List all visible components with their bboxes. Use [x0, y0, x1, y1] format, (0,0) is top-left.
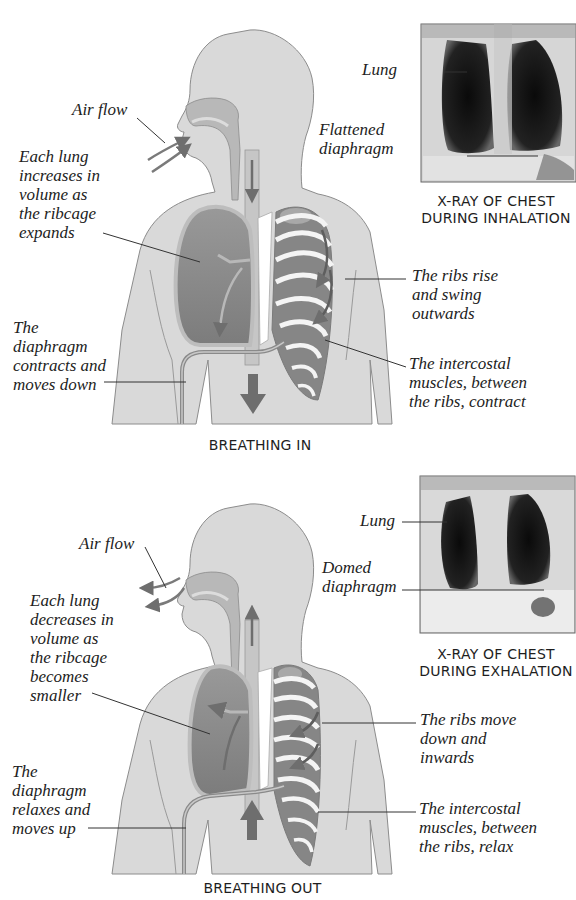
label-intercostal-contract: The intercostal muscles, between the rib…: [409, 354, 527, 411]
airflow-arrow-2: [152, 148, 186, 172]
label-air-flow-in: Air flow: [72, 100, 127, 119]
label-lung-increases: Each lung increases in volume as the rib…: [19, 147, 100, 242]
caption-breathing-out: BREATHING OUT: [175, 880, 350, 897]
label-xray-lung-out: Lung: [360, 511, 395, 530]
caption-xray-inhalation: X-RAY OF CHEST DURING INHALATION: [412, 193, 576, 227]
xray-exhale: [420, 476, 575, 633]
xray-inhale: [421, 24, 576, 182]
label-diaphragm-relaxes: The diaphragm relaxes and moves up: [12, 762, 90, 838]
caption-breathing-in: BREATHING IN: [180, 437, 340, 454]
label-air-flow-out: Air flow: [79, 534, 134, 553]
label-ribs-rise: The ribs rise and swing outwards: [412, 266, 498, 323]
label-diaphragm-contracts: The diaphragm contracts and moves down: [13, 318, 106, 394]
inhale-figure: [112, 30, 392, 424]
left-lung: [176, 207, 253, 345]
airflow-arrow-1: [148, 140, 184, 160]
label-ribs-move-down: The ribs move down and inwards: [420, 710, 516, 767]
label-xray-lung-in: Lung: [362, 60, 397, 79]
label-lung-decreases: Each lung decreases in volume as the rib…: [30, 591, 114, 705]
left-lung: [190, 666, 252, 796]
label-domed-diaphragm: Domed diaphragm: [322, 558, 397, 596]
caption-xray-exhalation: X-RAY OF CHEST DURING EXHALATION: [412, 646, 576, 680]
label-flattened-diaphragm: Flattened diaphragm: [319, 120, 394, 158]
label-intercostal-relax: The intercostal muscles, between the rib…: [419, 799, 537, 856]
